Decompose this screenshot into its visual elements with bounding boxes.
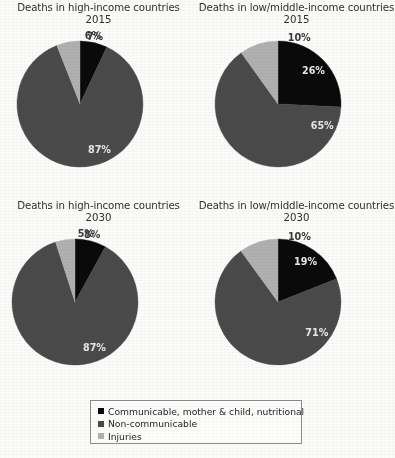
pie-panel-low-middle-income-2015: Deaths in low/middle-income countries 20… — [198, 2, 395, 197]
pie-chart-high-income-2030: 8%87%5% — [0, 227, 197, 377]
pie-slice-label: 71% — [305, 326, 328, 337]
pie-slice-label: 26% — [302, 64, 325, 75]
pie-slice-label: 5% — [78, 228, 95, 239]
pie-panel-low-middle-income-2030: Deaths in low/middle-income countries 20… — [198, 200, 395, 395]
legend-item[interactable]: Non-communicable — [98, 418, 295, 430]
pie-slice-label: 10% — [288, 32, 311, 43]
square-swatch-non-communicable — [98, 421, 104, 427]
pie-chart-low-middle-income-2030: 19%71%10% — [198, 227, 395, 377]
legend-item[interactable]: Communicable, mother & child, nutritiona… — [98, 405, 295, 417]
pie-title: Deaths in low/middle-income countries — [198, 200, 395, 212]
pie-panel-high-income-2030: Deaths in high-income countries 2030 8%8… — [0, 200, 197, 395]
pie-subtitle-year: 2015 — [198, 14, 395, 26]
legend-item-label: Injuries — [108, 431, 142, 442]
pie-svg: 8%87%5% — [0, 227, 160, 377]
pie-subtitle-year: 2030 — [0, 212, 197, 224]
square-swatch-injuries — [98, 433, 104, 439]
pie-subtitle-year: 2015 — [0, 14, 197, 26]
square-swatch-communicable — [98, 408, 104, 414]
pie-slice-label: 6% — [85, 30, 102, 41]
pie-slice-label: 19% — [294, 255, 317, 266]
pie-title: Deaths in high-income countries — [0, 2, 197, 14]
pie-svg: 19%71%10% — [198, 227, 358, 377]
pie-svg: 26%65%10% — [198, 29, 358, 179]
pie-slice-label: 87% — [83, 341, 106, 352]
pie-chart-low-middle-income-2015: 26%65%10% — [198, 29, 395, 179]
pie-subtitle-year: 2030 — [198, 212, 395, 224]
legend-item-label: Communicable, mother & child, nutritiona… — [108, 406, 304, 417]
pie-slice-label: 10% — [288, 230, 311, 241]
pie-title: Deaths in low/middle-income countries — [198, 2, 395, 14]
legend-item[interactable]: Injuries — [98, 430, 295, 442]
pie-title: Deaths in high-income countries — [0, 200, 197, 212]
pie-svg: 7%87%6% — [0, 29, 160, 179]
pie-slice-label: 65% — [311, 119, 334, 130]
legend-item-label: Non-communicable — [108, 418, 197, 429]
figure-sheet: Deaths in high-income countries 2015 7%8… — [0, 0, 395, 458]
chart-legend: Communicable, mother & child, nutritiona… — [90, 400, 302, 444]
pie-slice-label: 87% — [88, 143, 111, 154]
pie-chart-high-income-2015: 7%87%6% — [0, 29, 197, 179]
pie-panel-high-income-2015: Deaths in high-income countries 2015 7%8… — [0, 2, 197, 197]
